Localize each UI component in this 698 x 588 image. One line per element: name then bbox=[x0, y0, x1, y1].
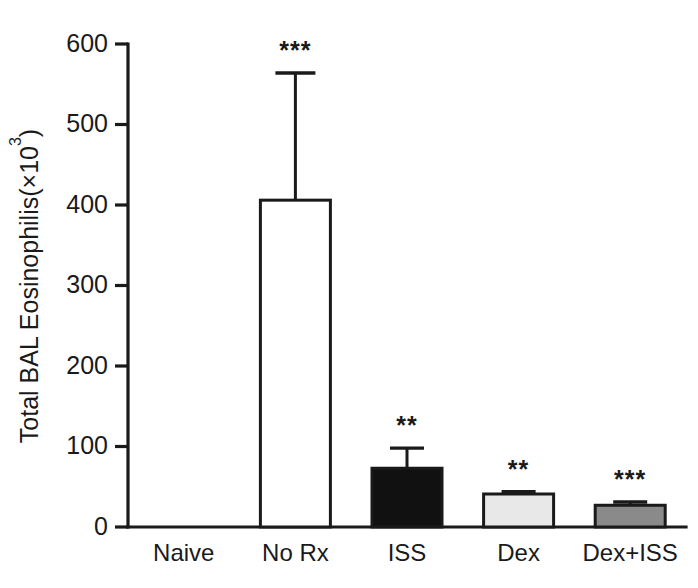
y-axis-tick-labels: 0100200300400500600 bbox=[66, 29, 108, 540]
y-tick-label: 400 bbox=[66, 190, 108, 218]
y-axis-label-base: Total BAL Eosinophilis(×10 bbox=[15, 146, 43, 443]
bars-series bbox=[260, 200, 665, 527]
y-tick-label: 600 bbox=[66, 29, 108, 57]
x-tick-label-dex: Dex bbox=[497, 539, 540, 566]
y-tick-label: 0 bbox=[94, 512, 108, 540]
y-axis-label-text: Total BAL Eosinophilis(×103) bbox=[7, 129, 44, 443]
y-axis-label: Total BAL Eosinophilis(×103) bbox=[7, 129, 44, 443]
bar-dex-iss bbox=[595, 505, 665, 527]
y-axis: 0100200300400500600 bbox=[66, 29, 128, 540]
y-axis-label-tail: ) bbox=[15, 129, 43, 137]
x-axis-tick-labels: NaiveNo RxISSDexDex+ISS bbox=[153, 539, 678, 566]
bar-iss bbox=[372, 468, 442, 527]
significance-marker-iss: ** bbox=[396, 411, 417, 439]
significance-marker-no-rx: *** bbox=[279, 36, 311, 64]
significance-markers: ********** bbox=[279, 36, 646, 493]
chart-canvas: 0100200300400500600 NaiveNo RxISSDexDex+… bbox=[0, 0, 698, 588]
significance-marker-dex: ** bbox=[508, 455, 529, 483]
y-tick-label: 100 bbox=[66, 431, 108, 459]
y-axis-ticks bbox=[115, 44, 128, 527]
significance-marker-dex-iss: *** bbox=[614, 465, 646, 493]
y-tick-label: 500 bbox=[66, 109, 108, 137]
bar-chart-figure: 0100200300400500600 NaiveNo RxISSDexDex+… bbox=[0, 0, 698, 588]
bar-no-rx bbox=[260, 200, 330, 527]
y-tick-label: 300 bbox=[66, 270, 108, 298]
x-axis: NaiveNo RxISSDexDex+ISS bbox=[128, 527, 686, 566]
bar-dex bbox=[484, 494, 554, 527]
y-tick-label: 200 bbox=[66, 351, 108, 379]
x-tick-label-dex-iss: Dex+ISS bbox=[583, 539, 678, 566]
x-tick-label-iss: ISS bbox=[388, 539, 427, 566]
y-axis-label-exponent: 3 bbox=[7, 137, 24, 146]
x-tick-label-no-rx: No Rx bbox=[262, 539, 329, 566]
x-tick-label-naive: Naive bbox=[153, 539, 214, 566]
